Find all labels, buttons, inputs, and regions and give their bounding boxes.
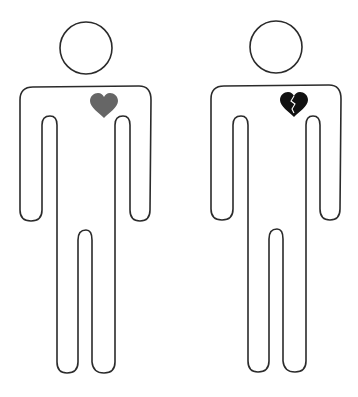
- body-outline-icon: [211, 85, 341, 372]
- figure-right: Person with broken heart: [190, 0, 358, 397]
- head-icon: [250, 21, 302, 73]
- body-outline-icon: [20, 86, 151, 373]
- figure-left: Person with whole heart: [0, 0, 179, 397]
- head-icon: [60, 22, 112, 74]
- illustration: Person with whole heart Person with brok…: [0, 0, 358, 397]
